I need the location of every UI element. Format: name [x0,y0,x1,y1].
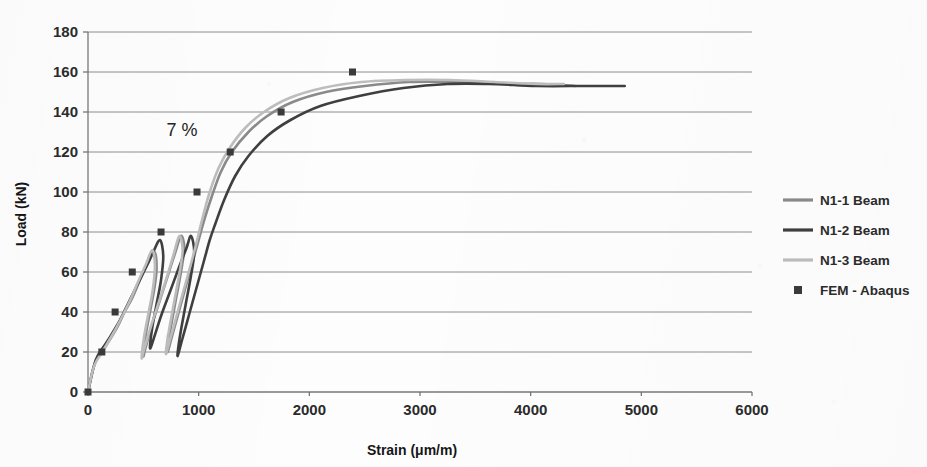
y-tick-label-20: 20 [61,343,78,360]
y-tick-label-100: 100 [53,183,78,200]
legend-entry-fem-abaqus: FEM - Abaqus [794,283,910,298]
legend-label-fem-abaqus: FEM - Abaqus [820,283,910,298]
legend-entry-n1-3-beam: N1-3 Beam [783,253,890,268]
fem-marker-point-2 [112,309,119,316]
y-tick-label-80: 80 [61,223,78,240]
chart-legend: N1-1 BeamN1-2 BeamN1-3 BeamFEM - Abaqus [783,193,910,298]
fem-marker-point-3 [129,269,136,276]
fem-marker-point-0 [85,389,92,396]
y-tick-label-60: 60 [61,263,78,280]
y-tick-label-40: 40 [61,303,78,320]
series-line-n1-3-beam [88,80,564,392]
chart-annotation-0: 7 % [167,120,198,140]
y-tick-labels: 020406080100120140160180 [53,23,78,400]
y-tick-label-140: 140 [53,103,78,120]
fem-marker-point-6 [227,149,234,156]
y-axis-title: Load (kN) [13,182,29,247]
legend-swatch-square-fem-abaqus [794,286,802,294]
fem-marker-point-5 [194,189,201,196]
x-tick-label-0: 0 [84,401,92,418]
legend-label-n1-1-beam: N1-1 Beam [820,193,890,208]
chart-figure: 020406080100120140160180 010002000300040… [0,0,927,467]
y-tick-label-160: 160 [53,63,78,80]
y-tick-label-180: 180 [53,23,78,40]
x-tick-label-5000: 5000 [625,401,658,418]
x-axis-title: Strain (μm/m) [367,442,457,458]
series-line-n1-1-beam [88,82,575,392]
x-tick-label-3000: 3000 [403,401,436,418]
y-tick-label-0: 0 [70,383,78,400]
y-tick-marks [83,32,88,392]
x-tick-label-6000: 6000 [735,401,768,418]
legend-entry-n1-2-beam: N1-2 Beam [783,223,890,238]
x-tick-label-1000: 1000 [182,401,215,418]
fem-marker-point-1 [98,349,105,356]
y-tick-label-120: 120 [53,143,78,160]
annotations-layer: 7 % [167,120,198,140]
legend-label-n1-3-beam: N1-3 Beam [820,253,890,268]
fem-marker-point-8 [349,69,356,76]
legend-label-n1-2-beam: N1-2 Beam [820,223,890,238]
x-tick-labels: 0100020003000400050006000 [84,401,769,418]
fem-marker-point-4 [158,229,165,236]
x-tick-label-4000: 4000 [514,401,547,418]
fem-marker-point-7 [278,109,285,116]
x-tick-label-2000: 2000 [293,401,326,418]
load-strain-chart: 020406080100120140160180 010002000300040… [0,0,927,467]
legend-entry-n1-1-beam: N1-1 Beam [783,193,890,208]
